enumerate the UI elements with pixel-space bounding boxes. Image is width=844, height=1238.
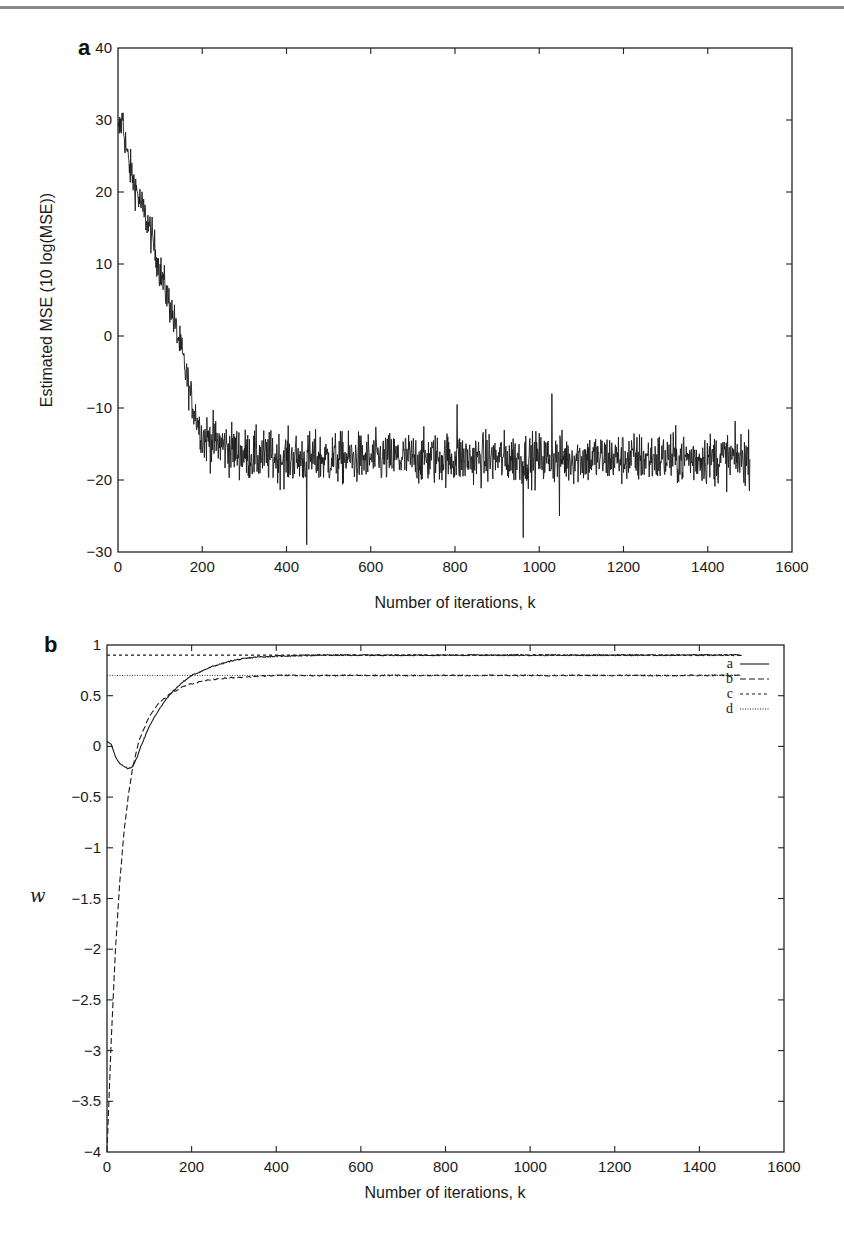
chart-panel-a: a 02004006008001000120014001600 −30−20−1… <box>38 35 809 611</box>
x-tick-label: 0 <box>114 558 122 575</box>
y-tick-label: −1.5 <box>71 890 101 907</box>
panel-label-a: a <box>78 35 91 60</box>
x-tick-label: 1600 <box>767 1158 800 1175</box>
x-tick-label: 0 <box>103 1158 111 1175</box>
y-tick-label: −3.5 <box>71 1092 101 1109</box>
x-axis-label-a: Number of iterations, k <box>375 594 537 611</box>
mse-curve <box>118 113 750 545</box>
chart-panel-b: b 02004006008001000120014001600 −4−3.5−3… <box>30 632 801 1201</box>
x-tick-label: 1600 <box>775 558 808 575</box>
y-tick-label: 40 <box>95 39 112 56</box>
y-tick-labels-a: −30−20−10010203040 <box>87 39 112 560</box>
x-tick-label: 600 <box>348 1158 373 1175</box>
y-tick-label: −1 <box>84 839 101 856</box>
series-a-line <box>107 655 742 769</box>
legend-label-c: c <box>727 686 733 701</box>
legend-label-b: b <box>726 671 733 686</box>
x-tick-label: 400 <box>274 558 299 575</box>
y-tick-label: −4 <box>84 1143 101 1160</box>
legend-b: abcd <box>726 656 769 716</box>
axes-b <box>107 645 784 1152</box>
legend-label-d: d <box>726 701 733 716</box>
x-tick-label: 1400 <box>691 558 724 575</box>
legend-label-a: a <box>727 656 734 671</box>
x-tick-label: 200 <box>179 1158 204 1175</box>
y-tick-label: −3 <box>84 1042 101 1059</box>
figure: a 02004006008001000120014001600 −30−20−1… <box>0 0 844 1238</box>
plot-frame <box>107 645 784 1152</box>
y-axis-label-b: w <box>30 885 46 906</box>
x-tick-label: 800 <box>433 1158 458 1175</box>
y-tick-label: 0.5 <box>80 687 101 704</box>
x-axis-label-b: Number of iterations, k <box>365 1184 527 1201</box>
y-tick-label: −20 <box>87 471 112 488</box>
y-tick-label: 0 <box>93 737 101 754</box>
y-tick-label: 30 <box>95 111 112 128</box>
y-tick-label: −10 <box>87 399 112 416</box>
y-tick-label: −2 <box>84 940 101 957</box>
x-tick-label: 1400 <box>683 1158 716 1175</box>
y-tick-label: −2.5 <box>71 991 101 1008</box>
x-tick-label: 1000 <box>513 1158 546 1175</box>
y-tick-label: 10 <box>95 255 112 272</box>
y-tick-labels-b: −4−3.5−3−2.5−2−1.5−1−0.500.51 <box>71 636 101 1160</box>
x-tick-label: 1200 <box>607 558 640 575</box>
x-tick-label: 400 <box>264 1158 289 1175</box>
y-axis-label-a: Estimated MSE (10 log(MSE)) <box>38 193 55 407</box>
y-tick-label: −30 <box>87 543 112 560</box>
x-tick-label: 1200 <box>598 1158 631 1175</box>
panel-label-b: b <box>44 632 57 657</box>
x-tick-label: 1000 <box>523 558 556 575</box>
y-tick-label: 20 <box>95 183 112 200</box>
x-tick-label: 200 <box>190 558 215 575</box>
y-tick-label: 1 <box>93 636 101 653</box>
y-tick-label: 0 <box>104 327 112 344</box>
series-b-line <box>107 675 742 1152</box>
x-tick-label: 600 <box>358 558 383 575</box>
x-tick-labels-a: 02004006008001000120014001600 <box>114 558 809 575</box>
y-tick-label: −0.5 <box>71 788 101 805</box>
plot-area-b <box>107 655 742 1152</box>
plot-area-a <box>118 113 750 545</box>
x-tick-label: 800 <box>442 558 467 575</box>
x-tick-labels-b: 02004006008001000120014001600 <box>103 1158 801 1175</box>
